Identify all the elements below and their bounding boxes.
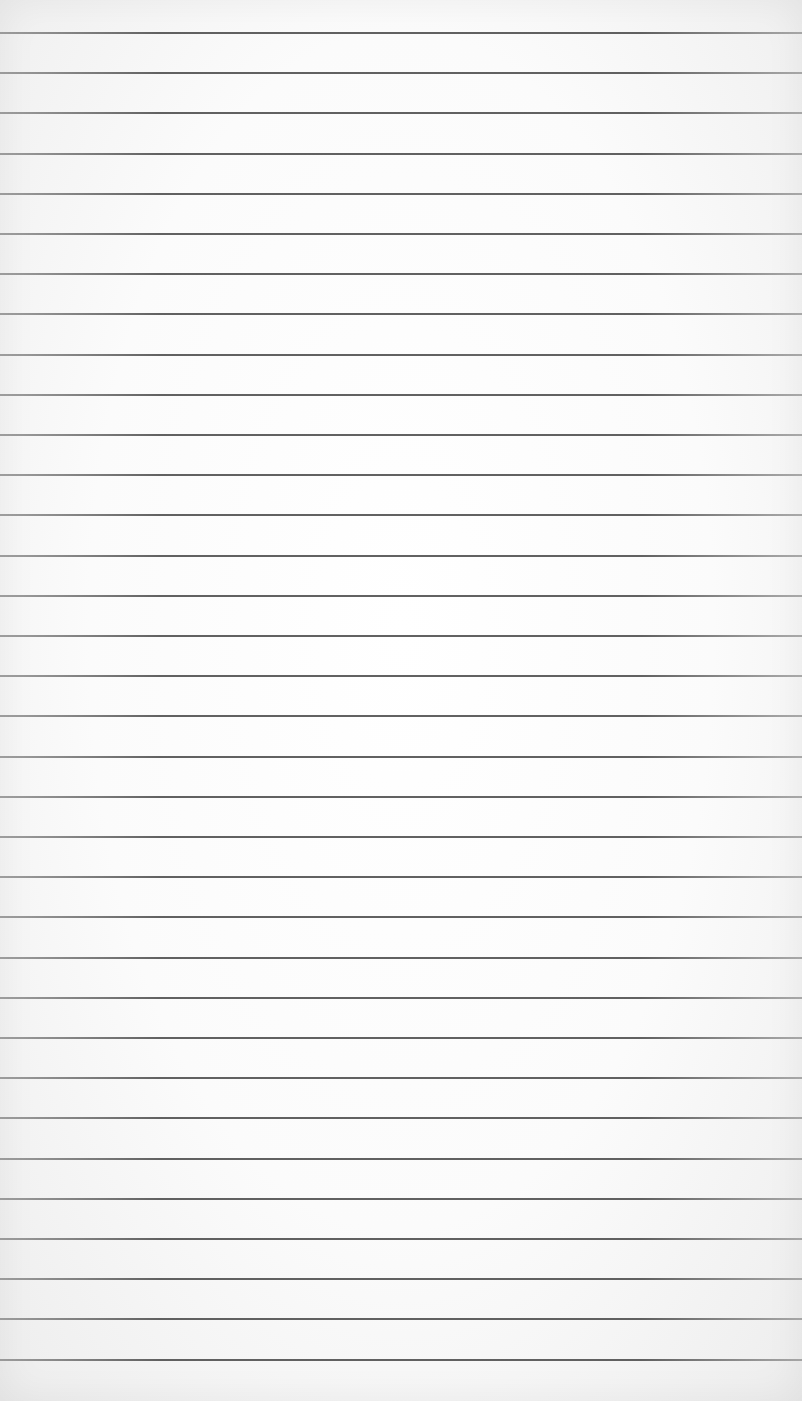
ruled-line — [0, 313, 802, 315]
ruled-line — [0, 394, 802, 396]
ruled-line — [0, 514, 802, 516]
ruled-line — [0, 434, 802, 436]
ruled-line — [0, 715, 802, 717]
ruled-line — [0, 193, 802, 195]
ruled-line — [0, 112, 802, 114]
ruled-line — [0, 1198, 802, 1200]
ruled-line — [0, 1117, 802, 1119]
ruled-line — [0, 635, 802, 637]
ruled-line — [0, 233, 802, 235]
ruled-line — [0, 1158, 802, 1160]
ruled-line — [0, 354, 802, 356]
ruled-line — [0, 555, 802, 557]
ruled-line — [0, 836, 802, 838]
ruled-line — [0, 1238, 802, 1240]
lined-paper-sheet — [0, 0, 802, 1401]
ruled-line — [0, 1077, 802, 1079]
ruled-line — [0, 916, 802, 918]
ruled-line — [0, 1318, 802, 1320]
ruled-line — [0, 876, 802, 878]
ruled-line — [0, 997, 802, 999]
ruled-line — [0, 756, 802, 758]
ruled-line — [0, 595, 802, 597]
ruled-line — [0, 474, 802, 476]
ruled-line — [0, 1037, 802, 1039]
ruled-line — [0, 1359, 802, 1361]
ruled-line — [0, 32, 802, 34]
ruled-line — [0, 273, 802, 275]
ruled-line — [0, 153, 802, 155]
ruled-line — [0, 957, 802, 959]
ruled-line — [0, 796, 802, 798]
ruled-line — [0, 1278, 802, 1280]
ruled-line — [0, 72, 802, 74]
ruled-line — [0, 675, 802, 677]
